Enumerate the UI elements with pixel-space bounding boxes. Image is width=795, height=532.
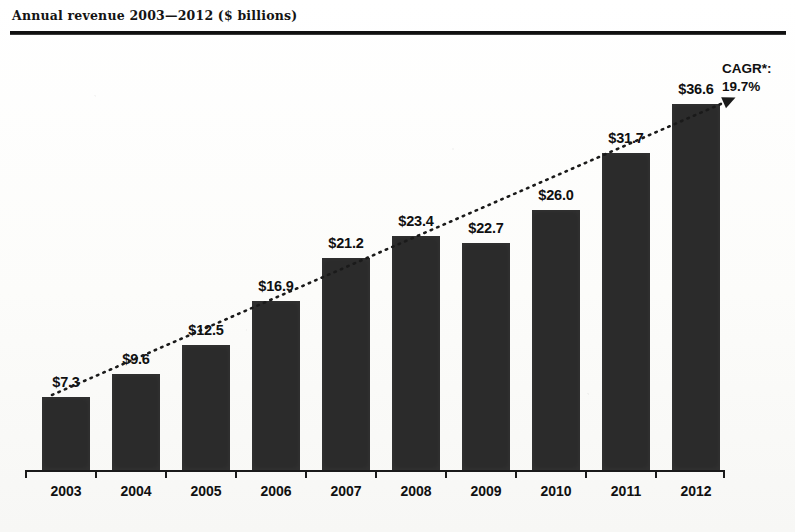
x-axis-label-2005: 2005 xyxy=(171,483,241,499)
bar-value-label-2009: $22.7 xyxy=(440,220,532,236)
plot-area: $7.32003$9.62004$12.52005$16.92006$21.22… xyxy=(0,0,795,532)
bar-2004 xyxy=(112,374,160,470)
x-axis-label-2011: 2011 xyxy=(591,483,661,499)
x-axis-label-2004: 2004 xyxy=(101,483,171,499)
bar-value-label-2011: $31.7 xyxy=(580,130,672,146)
chart-page: Annual revenue 2003—2012 ($ billions) $7… xyxy=(0,0,795,532)
bar-2007 xyxy=(322,258,370,470)
x-axis-baseline xyxy=(25,470,725,472)
bar-2011 xyxy=(602,153,650,470)
bar-value-label-2003: $7.3 xyxy=(20,374,112,390)
bar-2003 xyxy=(42,397,90,470)
bar-2010 xyxy=(532,210,580,470)
x-axis-label-2003: 2003 xyxy=(31,483,101,499)
cagr-label: CAGR*: xyxy=(722,60,772,78)
x-axis-label-2007: 2007 xyxy=(311,483,381,499)
x-axis-label-2012: 2012 xyxy=(661,483,731,499)
bar-value-label-2007: $21.2 xyxy=(300,235,392,251)
x-axis-label-2009: 2009 xyxy=(451,483,521,499)
bar-2012 xyxy=(672,104,720,470)
cagr-annotation: CAGR*: 19.7% xyxy=(722,60,772,96)
bar-2009 xyxy=(462,243,510,470)
bar-value-label-2005: $12.5 xyxy=(160,322,252,338)
cagr-value: 19.7% xyxy=(722,78,772,96)
bar-2006 xyxy=(252,301,300,470)
bar-2008 xyxy=(392,236,440,470)
x-axis-label-2008: 2008 xyxy=(381,483,451,499)
x-axis-label-2006: 2006 xyxy=(241,483,311,499)
bar-value-label-2004: $9.6 xyxy=(90,351,182,367)
x-axis-label-2010: 2010 xyxy=(521,483,591,499)
bar-2005 xyxy=(182,345,230,470)
bar-value-label-2010: $26.0 xyxy=(510,187,602,203)
bar-value-label-2006: $16.9 xyxy=(230,278,322,294)
